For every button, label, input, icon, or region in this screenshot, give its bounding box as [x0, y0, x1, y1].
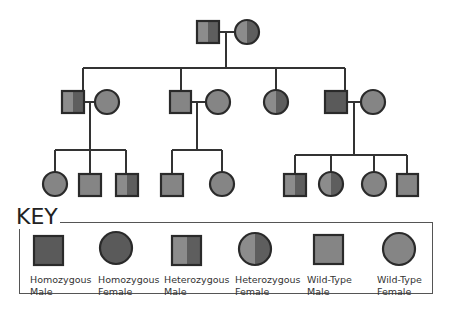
gen3-wildtype-male — [79, 174, 101, 196]
gen2-wildtype-female-spouse — [95, 90, 119, 114]
key-label-wildtype-male: Wild-Type Male — [307, 274, 352, 298]
gen3-heterozygous-female — [319, 172, 343, 196]
gen2-wildtype-female-spouse — [361, 90, 385, 114]
gen3-wildtype-female — [362, 172, 386, 196]
key-label-heterozygous-male: Heterozygous Male — [164, 274, 230, 298]
gen2-wildtype-female-spouse — [206, 90, 230, 114]
gen3-heterozygous-male — [284, 174, 306, 196]
key-label-wildtype-female: Wild-Type Female — [377, 274, 422, 298]
gen1-heterozygous-male — [197, 21, 219, 43]
gen3-wildtype-male — [397, 174, 418, 196]
key-label-heterozygous-female: Heterozygous Female — [235, 274, 301, 298]
gen2-wildtype-male — [170, 91, 191, 113]
key-title: KEY — [14, 205, 60, 229]
gen3-wildtype-female — [210, 172, 234, 196]
key-label-homozygous-male: Homozygous Male — [30, 274, 91, 298]
gen2-heterozygous-male — [62, 91, 84, 113]
gen1-heterozygous-female — [235, 20, 259, 44]
gen3-wildtype-female — [43, 172, 67, 196]
gen2-homozygous-male — [325, 91, 347, 113]
gen3-wildtype-male — [161, 174, 183, 196]
gen3-heterozygous-male — [116, 174, 138, 196]
gen2-heterozygous-female — [264, 90, 288, 114]
key-label-homozygous-female: Homozygous Female — [98, 274, 159, 298]
